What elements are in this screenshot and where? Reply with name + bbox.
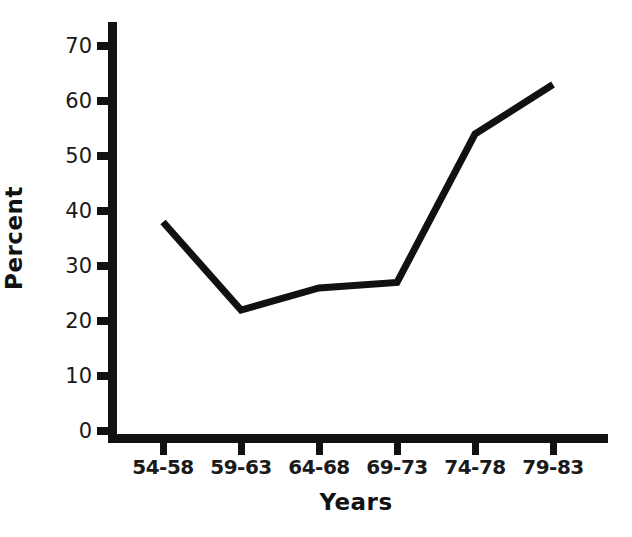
x-tick-label-69-73: 69-73 [366,455,427,479]
y-axis-title: Percent [1,186,27,290]
y-tick-label-0: 0 [46,419,92,443]
y-tick-label-20: 20 [46,309,92,333]
y-axis-spine [108,22,117,440]
x-tick-label-74-78: 74-78 [444,455,505,479]
data-series-line [163,85,553,311]
x-axis-spine [108,434,608,443]
x-tick-label-54-58: 54-58 [132,455,193,479]
y-tick-label-30: 30 [46,254,92,278]
y-tick-label-60: 60 [46,89,92,113]
y-tick-label-40: 40 [46,199,92,223]
y-tick-label-70: 70 [46,34,92,58]
x-tick-label-79-83: 79-83 [522,455,583,479]
x-axis-ticks [160,443,557,455]
y-axis-ticks [97,42,109,435]
y-tick-label-50: 50 [46,144,92,168]
x-tick-label-64-68: 64-68 [288,455,349,479]
x-tick-label-59-63: 59-63 [210,455,271,479]
chart-figure: 70 60 50 40 30 20 10 0 54-58 59-63 64-68… [0,0,632,537]
x-axis-title: Years [319,489,392,515]
y-tick-label-10: 10 [46,364,92,388]
